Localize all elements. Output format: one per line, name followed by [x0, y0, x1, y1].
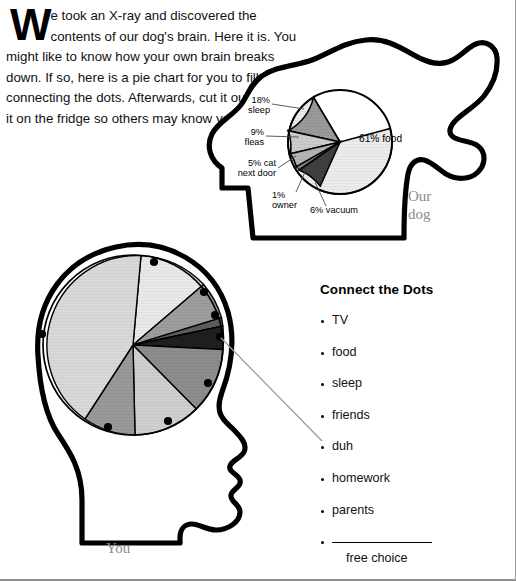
connect-the-dots-heading: Connect the Dots [320, 282, 510, 297]
you-caption: You [106, 540, 130, 557]
bullet-dot-icon[interactable] [321, 478, 324, 481]
bullet-dot-icon[interactable] [321, 510, 324, 513]
list-item-label: friends [332, 408, 370, 422]
free-choice-write-in-line[interactable] [332, 542, 432, 543]
list-item[interactable]: friends [320, 408, 510, 422]
connector-line-duh [221, 338, 322, 441]
list-item[interactable]: homework [320, 471, 510, 485]
pie-dot-3 [211, 311, 219, 319]
dog-label-vacuum: 6% vacuum [310, 205, 358, 215]
dog-label-fleas: 9% fleas [182, 127, 264, 148]
dog-label-food: 61% food [359, 134, 402, 144]
list-item[interactable]: food [320, 345, 510, 359]
list-item-label: sleep [332, 376, 362, 390]
connect-the-dots-panel: Connect the Dots TV food sleep friends d… [320, 282, 510, 565]
list-item-label: homework [332, 471, 390, 485]
list-item-label: TV [332, 313, 348, 327]
dog-label-sleep: 18% sleep [182, 95, 270, 116]
list-item-label: duh [332, 439, 353, 453]
bullet-dot-icon[interactable] [321, 541, 324, 544]
list-item-label: parents [332, 503, 374, 517]
dog-caption-line2: dog [408, 206, 431, 223]
bullet-dot-icon[interactable] [321, 352, 324, 355]
pie-dot-5 [204, 379, 212, 387]
pie-dot-1 [150, 258, 158, 266]
pie-dot-6 [164, 417, 172, 425]
pie-dot-2 [200, 288, 208, 296]
free-choice-label: free choice [346, 551, 510, 565]
list-item-label: food [332, 345, 357, 359]
list-item-free-choice[interactable] [320, 534, 510, 548]
list-item[interactable]: parents [320, 503, 510, 517]
dog-label-cat-next-door: 5% cat next door [180, 158, 276, 179]
dog-label-owner: 1% owner [272, 190, 297, 211]
bullet-dot-icon[interactable] [321, 446, 324, 449]
connect-the-dots-list: TV food sleep friends duh homework [320, 313, 510, 548]
list-item[interactable]: TV [320, 313, 510, 327]
dog-caption-line1: Our [408, 188, 431, 205]
pie-dot-8 [38, 330, 46, 338]
list-item[interactable]: sleep [320, 376, 510, 390]
bullet-dot-icon[interactable] [321, 320, 324, 323]
bullet-dot-icon[interactable] [321, 383, 324, 386]
page-canvas: We took an X-ray and discovered the cont… [0, 0, 516, 581]
list-item[interactable]: duh [320, 439, 510, 453]
bullet-dot-icon[interactable] [321, 415, 324, 418]
pie-dot-7 [104, 423, 112, 431]
